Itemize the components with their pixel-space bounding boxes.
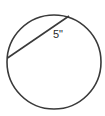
circle-diagram: 5" [0,0,105,116]
chord-length-label: 5" [53,28,63,40]
